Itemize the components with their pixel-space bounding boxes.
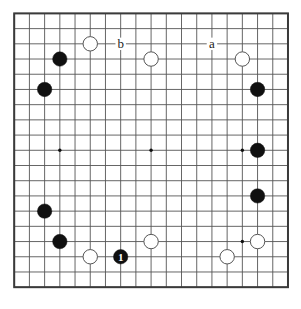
- black-stone[interactable]: 1: [113, 250, 127, 264]
- go-board-diagram: 1 ba: [0, 0, 301, 309]
- stone-disc: [250, 234, 264, 248]
- board-point-label-a: a: [209, 36, 215, 51]
- stone-disc: [144, 234, 158, 248]
- goban-canvas[interactable]: 1 ba: [0, 0, 301, 309]
- white-stone[interactable]: [83, 250, 97, 264]
- stone-disc: [250, 143, 264, 157]
- stone-disc: [250, 82, 264, 96]
- stone-disc: [53, 234, 67, 248]
- star-point: [58, 149, 61, 152]
- black-stone[interactable]: [37, 82, 51, 96]
- star-point: [241, 240, 244, 243]
- black-stone[interactable]: [250, 82, 264, 96]
- black-stone[interactable]: [53, 52, 67, 66]
- stone-move-number: 1: [118, 251, 124, 263]
- black-stone[interactable]: [250, 143, 264, 157]
- stone-disc: [83, 250, 97, 264]
- stone-disc: [220, 250, 234, 264]
- stone-disc: [53, 52, 67, 66]
- star-point: [241, 149, 244, 152]
- white-stone[interactable]: [250, 234, 264, 248]
- stone-disc: [144, 52, 158, 66]
- white-stone[interactable]: [144, 52, 158, 66]
- black-stone[interactable]: [37, 204, 51, 218]
- white-stone[interactable]: [235, 52, 249, 66]
- stone-disc: [37, 82, 51, 96]
- board-point-label-b: b: [117, 36, 124, 51]
- white-stone[interactable]: [220, 250, 234, 264]
- stone-disc: [235, 52, 249, 66]
- black-stone[interactable]: [250, 189, 264, 203]
- star-point: [149, 149, 152, 152]
- stone-disc: [37, 204, 51, 218]
- black-stone[interactable]: [53, 234, 67, 248]
- white-stone[interactable]: [83, 37, 97, 51]
- stone-disc: [83, 37, 97, 51]
- white-stone[interactable]: [144, 234, 158, 248]
- stone-disc: [250, 189, 264, 203]
